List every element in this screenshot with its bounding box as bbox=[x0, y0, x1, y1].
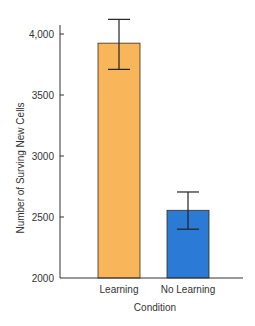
y-tick-label: 3500 bbox=[32, 90, 55, 101]
bars-group bbox=[98, 43, 209, 278]
y-axis-title: Number of Surving New Cells bbox=[15, 102, 26, 233]
y-tick-label: 3000 bbox=[32, 151, 55, 162]
y-tick-label: 4,000 bbox=[29, 29, 54, 40]
bar-learning bbox=[98, 43, 140, 278]
x-axis-labels: LearningNo Learning bbox=[100, 284, 216, 295]
y-tick-label: 2500 bbox=[32, 212, 55, 223]
y-axis-ticks: 20002500300035004,000 bbox=[29, 29, 64, 284]
x-tick-label: Learning bbox=[100, 284, 139, 295]
x-tick-label: No Learning bbox=[161, 284, 215, 295]
bar-chart: 20002500300035004,000 LearningNo Learnin… bbox=[0, 0, 255, 326]
y-tick-label: 2000 bbox=[32, 273, 55, 284]
x-axis-title: Condition bbox=[134, 302, 176, 313]
